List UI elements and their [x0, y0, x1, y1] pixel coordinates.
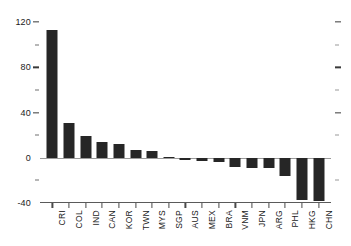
- bar-arg[interactable]: [263, 158, 274, 169]
- bar-chn[interactable]: [313, 158, 324, 201]
- x-tick-twn: [135, 203, 136, 208]
- x-label-slot: ARG: [260, 209, 277, 246]
- bar-slot: [44, 22, 61, 203]
- bar-bra[interactable]: [213, 158, 224, 163]
- y-tick-100: [35, 44, 39, 45]
- bar-slot: [310, 22, 327, 203]
- y-axis-label-40: 40: [21, 108, 31, 117]
- x-tick-slot: [227, 203, 244, 208]
- x-label-slot: AUS: [177, 209, 194, 246]
- x-axis-labels: CRICOLINDCANKORTWNMYSSGPAUSMEXBRAVNMJPNA…: [40, 209, 331, 246]
- x-label-slot: TWN: [127, 209, 144, 246]
- bar-slot: [77, 22, 94, 203]
- x-tick-slot: [44, 203, 61, 208]
- x-tick-slot: [111, 203, 128, 208]
- bar-kor[interactable]: [113, 144, 124, 158]
- bar-slot: [294, 22, 311, 203]
- y-tick-120: [33, 21, 39, 22]
- y-tick-60: [35, 89, 39, 90]
- y-tick-20: [35, 135, 39, 136]
- x-label-slot: CAN: [94, 209, 111, 246]
- x-tick-slot: [194, 203, 211, 208]
- bar-slot: [94, 22, 111, 203]
- x-tick-slot: [61, 203, 78, 208]
- x-tick-slot: [260, 203, 277, 208]
- x-label-slot: COL: [61, 209, 78, 246]
- y-axis: 120 80 40 0 -40: [0, 0, 40, 246]
- y-axis-label-80: 80: [21, 63, 31, 72]
- x-label-slot: VNM: [227, 209, 244, 246]
- x-label-slot: MEX: [194, 209, 211, 246]
- bar-col[interactable]: [63, 123, 74, 158]
- x-label-slot: BRA: [210, 209, 227, 246]
- y-tick-right-40: [335, 112, 341, 113]
- bar-slot: [210, 22, 227, 203]
- bar-series: [40, 22, 331, 203]
- x-tick-slot: [310, 203, 327, 208]
- x-tick-arg: [268, 203, 269, 208]
- x-label-slot: CRI: [44, 209, 61, 246]
- bar-phl[interactable]: [280, 158, 291, 176]
- bar-vnm[interactable]: [230, 158, 241, 167]
- x-label-slot: PHL: [277, 209, 294, 246]
- x-label-slot: JPN: [244, 209, 261, 246]
- bar-slot: [144, 22, 161, 203]
- plot-area: [40, 22, 331, 203]
- bar-hkg[interactable]: [296, 158, 307, 200]
- bar-slot: [260, 22, 277, 203]
- x-tick-kor: [118, 203, 119, 208]
- bar-slot: [177, 22, 194, 203]
- x-tick-slot: [294, 203, 311, 208]
- x-tick-chn: [318, 203, 319, 208]
- y-tick-minus20: [35, 180, 39, 181]
- x-tick-mys: [152, 203, 153, 208]
- x-tick-ind: [85, 203, 86, 208]
- x-tick-slot: [94, 203, 111, 208]
- x-tick-slot: [144, 203, 161, 208]
- x-label-slot: SGP: [160, 209, 177, 246]
- bar-sgp[interactable]: [163, 157, 174, 158]
- bar-can[interactable]: [97, 142, 108, 158]
- y-tick-right-100: [335, 44, 339, 45]
- y-tick-right-80: [335, 67, 341, 68]
- y-tick-right-60: [335, 89, 339, 90]
- x-tick-slot: [244, 203, 261, 208]
- bar-slot: [160, 22, 177, 203]
- bar-slot: [227, 22, 244, 203]
- x-tick-sgp: [168, 203, 169, 208]
- bar-mex[interactable]: [197, 158, 208, 161]
- x-tick-hkg: [301, 203, 302, 208]
- bar-aus[interactable]: [180, 158, 191, 160]
- x-tick-bra: [218, 203, 219, 208]
- x-tick-jpn: [251, 203, 252, 208]
- x-axis-label-chn: CHN: [324, 210, 334, 229]
- x-tick-can: [102, 203, 103, 208]
- bar-cri[interactable]: [47, 30, 58, 158]
- x-tick-slot: [210, 203, 227, 208]
- y-tick-right-20: [335, 135, 339, 136]
- x-tick-slot: [277, 203, 294, 208]
- x-tick-slot: [127, 203, 144, 208]
- bar-twn[interactable]: [130, 150, 141, 158]
- x-tick-slot: [160, 203, 177, 208]
- y-tick-right-120: [335, 21, 341, 22]
- y-axis-label-minus40: -40: [17, 199, 31, 208]
- y-axis-label-0: 0: [26, 153, 31, 162]
- x-axis-ticks: [40, 203, 331, 208]
- bar-slot: [111, 22, 128, 203]
- bar-slot: [127, 22, 144, 203]
- x-label-slot: KOR: [111, 209, 128, 246]
- x-tick-vnm: [235, 203, 236, 208]
- x-tick-mex: [201, 203, 202, 208]
- x-label-slot: IND: [77, 209, 94, 246]
- x-tick-aus: [185, 203, 186, 208]
- x-tick-slot: [177, 203, 194, 208]
- y-tick-80: [33, 67, 39, 68]
- y-tick-right-minus20: [335, 180, 339, 181]
- x-label-slot: CHN: [310, 209, 327, 246]
- bar-ind[interactable]: [80, 136, 91, 157]
- x-tick-slot: [77, 203, 94, 208]
- bar-mys[interactable]: [147, 151, 158, 158]
- bar-slot: [244, 22, 261, 203]
- bar-jpn[interactable]: [247, 158, 258, 168]
